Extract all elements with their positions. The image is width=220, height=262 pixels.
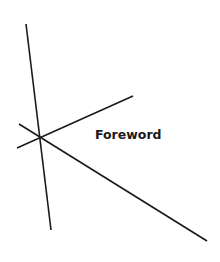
page-title: Foreword — [95, 127, 162, 142]
line-near-vertical — [26, 24, 51, 230]
